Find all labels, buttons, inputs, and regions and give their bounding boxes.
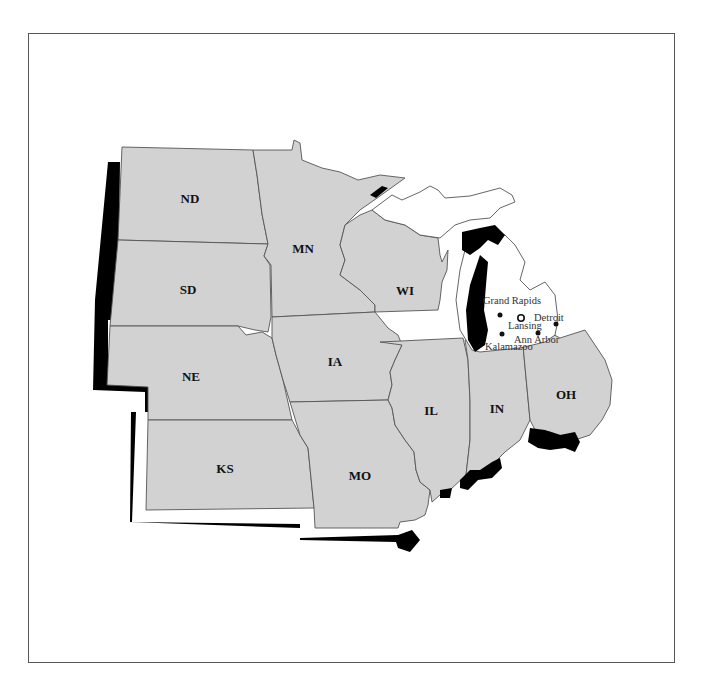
label-il: IL — [424, 403, 438, 418]
state-oh[interactable] — [522, 330, 612, 440]
label-sd: SD — [180, 282, 197, 297]
city-dot-kalamazoo — [500, 332, 505, 337]
label-mo: MO — [349, 468, 371, 483]
label-ne: NE — [182, 369, 200, 384]
label-nd: ND — [181, 191, 200, 206]
label-in: IN — [490, 401, 505, 416]
midwest-map: ND MN SD WI NE IA IL IN OH KS MO Grand R… — [0, 0, 705, 697]
city-dot-grand-rapids — [498, 313, 503, 318]
label-ks: KS — [216, 461, 233, 476]
label-oh: OH — [556, 387, 576, 402]
city-label-kalamazoo: Kalamazoo — [485, 341, 533, 352]
label-ia: IA — [328, 354, 343, 369]
label-wi: WI — [396, 283, 414, 298]
label-mn: MN — [292, 241, 314, 256]
city-label-grand-rapids: Grand Rapids — [483, 295, 541, 306]
city-label-detroit: Detroit — [534, 312, 564, 323]
